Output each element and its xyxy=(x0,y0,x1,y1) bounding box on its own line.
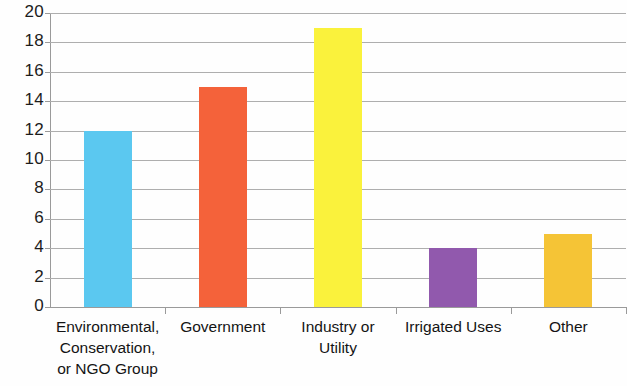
y-tick-label: 20 xyxy=(6,2,44,22)
y-tick-label: 4 xyxy=(6,237,44,257)
bar xyxy=(314,28,362,307)
x-category-label-line: Irrigated Uses xyxy=(396,316,511,337)
x-category-label-line: Utility xyxy=(280,337,395,358)
y-tick-label: 12 xyxy=(6,120,44,140)
y-tick-label: 6 xyxy=(6,208,44,228)
x-category-label-line: Government xyxy=(165,316,280,337)
y-tick-label: 8 xyxy=(6,178,44,198)
bar xyxy=(84,131,132,307)
y-tick-label: 14 xyxy=(6,90,44,110)
bar xyxy=(429,248,477,307)
x-category-label: Industry orUtility xyxy=(280,316,395,358)
y-tick-label: 18 xyxy=(6,31,44,51)
x-tick-mark xyxy=(165,307,166,314)
x-category-label-line: Conservation, xyxy=(50,337,165,358)
y-axis-tick-labels: 20 18 16 14 12 10 8 6 4 2 0 xyxy=(0,0,44,320)
bar xyxy=(199,87,247,308)
y-tick-label: 2 xyxy=(6,267,44,287)
x-category-label-line: Environmental, xyxy=(50,316,165,337)
bar-chart: 20 18 16 14 12 10 8 6 4 2 0 Environmenta… xyxy=(0,0,627,386)
y-tick-label: 10 xyxy=(6,149,44,169)
x-category-label-line: Other xyxy=(511,316,626,337)
x-category-label: Government xyxy=(165,316,280,337)
plot-area xyxy=(50,13,626,307)
x-category-label-line: Industry or xyxy=(280,316,395,337)
x-tick-mark xyxy=(280,307,281,314)
y-tick-label: 0 xyxy=(6,296,44,316)
x-tick-mark xyxy=(396,307,397,314)
gridline xyxy=(50,13,626,14)
x-category-label: Irrigated Uses xyxy=(396,316,511,337)
x-category-label-line: or NGO Group xyxy=(50,358,165,379)
x-tick-mark xyxy=(511,307,512,314)
x-category-label: Environmental,Conservation,or NGO Group xyxy=(50,316,165,379)
x-category-label: Other xyxy=(511,316,626,337)
x-axis-baseline xyxy=(50,307,626,308)
y-tick-label: 16 xyxy=(6,61,44,81)
bar xyxy=(544,234,592,308)
